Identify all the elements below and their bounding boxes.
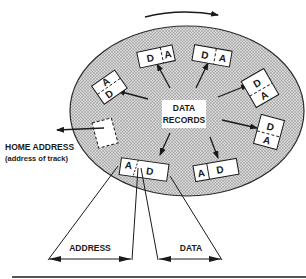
address-field-label: A <box>124 159 133 171</box>
disk-track-diagram: DATA RECORDS A D D A D A D A <box>0 0 306 279</box>
rotation-arrow-icon <box>145 12 218 17</box>
address-measure-label: ADDRESS <box>69 243 111 253</box>
data-field-label: D <box>146 165 155 177</box>
home-address-title: HOME ADDRESS <box>5 142 74 152</box>
center-label-line2: RECORDS <box>163 115 206 125</box>
home-address-subtitle: (address of track) <box>5 154 68 163</box>
data-measure-label: DATA <box>180 243 202 253</box>
center-label-line1: DATA <box>173 103 195 113</box>
